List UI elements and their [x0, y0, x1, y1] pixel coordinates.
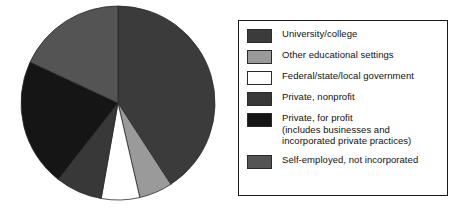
legend-item-private-for-profit: Private, for profit (includes businesses…	[247, 112, 441, 147]
legend-swatch-private-nonprofit	[247, 92, 272, 106]
legend-swatch-university-college	[247, 29, 272, 43]
legend-item-university-college: University/college	[247, 28, 441, 43]
pie-chart-figure: University/college Other educational set…	[0, 0, 455, 214]
legend-label-private-for-profit: Private, for profit (includes businesses…	[282, 112, 411, 147]
legend-item-private-nonprofit: Private, nonprofit	[247, 91, 441, 106]
legend-label-federal-state-local-government: Federal/state/local government	[282, 70, 414, 82]
legend-item-self-employed-not-incorporated: Self-employed, not incorporated	[247, 154, 441, 169]
pie-slice-group	[21, 6, 215, 200]
legend-label-self-employed-not-incorporated: Self-employed, not incorporated	[282, 154, 418, 166]
legend-swatch-federal-state-local-government	[247, 71, 272, 85]
legend-swatch-private-for-profit	[247, 113, 272, 127]
legend-label-university-college: University/college	[282, 28, 357, 40]
legend-swatch-other-educational-settings	[247, 50, 272, 64]
pie-chart-graphic	[0, 0, 232, 214]
legend-item-other-educational-settings: Other educational settings	[247, 49, 441, 64]
legend-label-other-educational-settings: Other educational settings	[282, 49, 394, 61]
legend-label-private-nonprofit: Private, nonprofit	[282, 91, 355, 103]
legend-swatch-self-employed-not-incorporated	[247, 155, 272, 169]
legend-item-federal-state-local-government: Federal/state/local government	[247, 70, 441, 85]
chart-legend: University/college Other educational set…	[238, 20, 448, 196]
pie-svg	[0, 0, 232, 214]
legend-items-container: University/college Other educational set…	[239, 21, 447, 195]
